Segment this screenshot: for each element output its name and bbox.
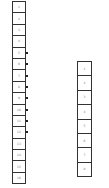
left-stack: 12345678910111213141516: [12, 1, 26, 184]
right-stack-cell: 6: [77, 133, 92, 148]
connector-tick-icon: [26, 109, 28, 111]
right-stack-cell: 3: [77, 90, 92, 105]
right-stack-cell: 2: [77, 75, 92, 90]
cell-label: 4: [84, 110, 86, 114]
right-stack-cell: 5: [77, 119, 92, 134]
cell-label: 6: [84, 139, 86, 143]
cell-label: 5: [84, 124, 86, 128]
cell-label: 9: [18, 96, 20, 100]
cell-label: 8: [84, 167, 86, 171]
connector-tick-icon: [26, 120, 28, 122]
cell-label: 6: [18, 62, 20, 66]
cell-label: 1: [18, 5, 20, 9]
cell-label: 1: [84, 67, 86, 71]
right-stack-cell: 8: [77, 162, 92, 177]
connector-tick-icon: [26, 63, 28, 65]
cell-label: 2: [18, 17, 20, 21]
right-stack-cell: 7: [77, 147, 92, 162]
cell-label: 4: [18, 39, 20, 43]
left-stack-cell: 16: [12, 172, 26, 184]
connector-tick-icon: [26, 52, 28, 54]
connector-tick-icon: [26, 131, 28, 133]
cell-label: 3: [84, 95, 86, 99]
cell-label: 11: [17, 119, 21, 123]
cell-label: 15: [17, 165, 21, 169]
right-stack-cell: 1: [77, 61, 92, 76]
cell-label: 7: [84, 153, 86, 157]
cell-label: 16: [17, 176, 21, 180]
cell-label: 5: [18, 51, 20, 55]
connector-tick-icon: [26, 86, 28, 88]
cell-label: 7: [18, 74, 20, 78]
cell-label: 13: [17, 142, 21, 146]
cell-label: 12: [17, 130, 21, 134]
connector-tick-icon: [26, 75, 28, 77]
cell-label: 8: [18, 85, 20, 89]
cell-label: 14: [17, 153, 21, 157]
cell-label: 3: [18, 28, 20, 32]
right-stack: 12345678: [77, 61, 92, 177]
cell-label: 10: [17, 108, 21, 112]
right-stack-cell: 4: [77, 104, 92, 119]
cell-label: 2: [84, 81, 86, 85]
connector-tick-icon: [26, 97, 28, 99]
